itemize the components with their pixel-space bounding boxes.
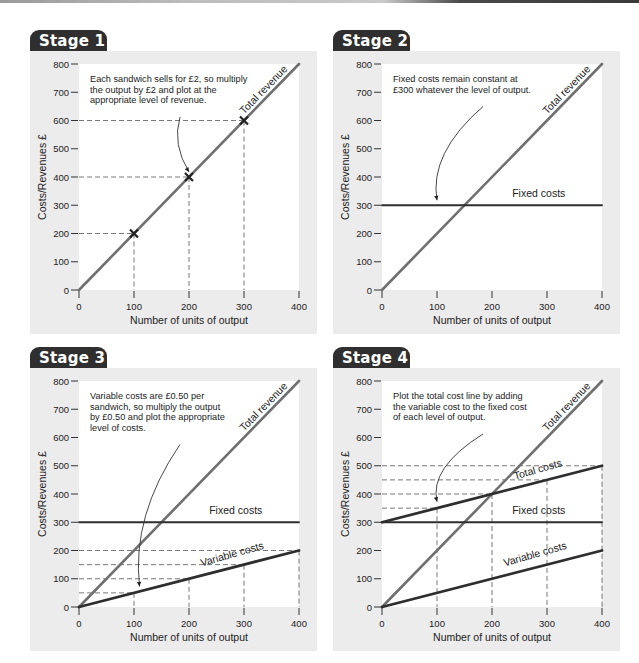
y-tick-label: 0 (64, 285, 69, 296)
y-tick-label: 0 (64, 602, 69, 613)
stage-3-tab: Stage 3 (30, 347, 107, 368)
x-tick-label: 0 (379, 618, 384, 629)
stage-1-tab: Stage 1 (30, 30, 107, 51)
y-tick-label: 100 (356, 256, 372, 267)
y-tick-label: 700 (356, 404, 372, 415)
x-tick-label: 300 (236, 618, 252, 629)
y-tick-label: 200 (356, 545, 372, 556)
y-tick-label: 300 (356, 200, 372, 211)
y-tick-label: 800 (53, 376, 69, 387)
x-tick-label: 0 (76, 618, 81, 629)
y-tick-label: 800 (356, 59, 372, 70)
stage-1-chart: 01002003004005006007008000100200300400Nu… (30, 51, 317, 334)
annotation-text: Fixed costs remain constant at (393, 74, 518, 84)
y-tick-label: 0 (367, 285, 372, 296)
annotation-text: Each sandwich sells for £2, so multiply (90, 74, 248, 84)
x-tick-label: 400 (594, 618, 610, 629)
stage-1-chart-panel: 01002003004005006007008000100200300400Nu… (30, 51, 317, 334)
annotation-text: level of costs. (90, 423, 146, 433)
x-tick-label: 0 (76, 301, 81, 312)
annotation-text: by £0.50 and plot the appropriate (90, 412, 225, 422)
x-tick-label: 200 (484, 301, 500, 312)
stage-2-figure: Stage 2 01002003004005006007008000100200… (333, 30, 620, 334)
stage-4-chart: 01002003004005006007008000100200300400Nu… (333, 368, 620, 651)
y-tick-label: 300 (356, 517, 372, 528)
annotation-text: Variable costs are £0.50 per (90, 391, 204, 401)
y-tick-label: 700 (53, 87, 69, 98)
x-tick-label: 100 (429, 301, 445, 312)
y-tick-label: 400 (356, 489, 372, 500)
y-tick-label: 800 (53, 59, 69, 70)
y-tick-label: 600 (356, 115, 372, 126)
x-tick-label: 400 (594, 301, 610, 312)
x-tick-label: 100 (126, 618, 142, 629)
x-tick-label: 300 (236, 301, 252, 312)
y-tick-label: 600 (53, 432, 69, 443)
fixed-costs-label: Fixed costs (512, 504, 565, 516)
x-tick-label: 0 (379, 301, 384, 312)
x-axis-label: Number of units of output (433, 631, 551, 643)
annotation-text: Plot the total cost line by adding (393, 391, 523, 401)
fixed-costs-label: Fixed costs (512, 187, 565, 199)
stage-2-tab: Stage 2 (333, 30, 410, 51)
y-tick-label: 700 (53, 404, 69, 415)
x-tick-label: 200 (484, 618, 500, 629)
y-tick-label: 600 (53, 115, 69, 126)
y-tick-label: 400 (53, 172, 69, 183)
x-tick-label: 400 (291, 618, 307, 629)
x-axis-label: Number of units of output (130, 631, 248, 643)
x-tick-label: 100 (429, 618, 445, 629)
annotation-text: appropriate level of revenue. (90, 95, 206, 105)
y-axis-label: Costs/Revenues £ (339, 134, 351, 220)
stage-3-figure: Stage 3 01002003004005006007008000100200… (30, 347, 317, 651)
x-tick-label: 400 (291, 301, 307, 312)
y-tick-label: 500 (356, 143, 372, 154)
y-tick-label: 700 (356, 87, 372, 98)
stage-4-tab: Stage 4 (333, 347, 410, 368)
y-tick-label: 500 (53, 460, 69, 471)
y-tick-label: 100 (356, 573, 372, 584)
y-tick-label: 300 (53, 200, 69, 211)
y-tick-label: 200 (53, 545, 69, 556)
y-tick-label: 500 (53, 143, 69, 154)
y-axis-label: Costs/Revenues £ (36, 451, 48, 537)
y-tick-label: 200 (53, 228, 69, 239)
annotation-text: of each level of output. (393, 412, 485, 422)
x-tick-label: 200 (181, 301, 197, 312)
annotation-text: sandwich, so multiply the output (90, 402, 221, 412)
stage-3-chart-panel: 01002003004005006007008000100200300400Nu… (30, 368, 317, 651)
stage-4-figure: Stage 4 01002003004005006007008000100200… (333, 347, 620, 651)
x-axis-label: Number of units of output (433, 314, 551, 326)
stage-3-chart: 01002003004005006007008000100200300400Nu… (30, 368, 317, 651)
y-tick-label: 600 (356, 432, 372, 443)
y-axis-label: Costs/Revenues £ (339, 451, 351, 537)
x-tick-label: 200 (181, 618, 197, 629)
annotation-text: the output by £2 and plot at the (90, 85, 217, 95)
y-tick-label: 400 (53, 489, 69, 500)
top-border-strip (0, 0, 639, 3)
stage-2-chart: 01002003004005006007008000100200300400Nu… (333, 51, 620, 334)
y-tick-label: 0 (367, 602, 372, 613)
y-tick-label: 100 (53, 573, 69, 584)
fixed-costs-label: Fixed costs (209, 504, 262, 516)
y-axis-label: Costs/Revenues £ (36, 134, 48, 220)
y-tick-label: 200 (356, 228, 372, 239)
annotation-text: £300 whatever the level of output. (393, 85, 531, 95)
y-tick-label: 100 (53, 256, 69, 267)
x-tick-label: 300 (539, 618, 555, 629)
x-tick-label: 300 (539, 301, 555, 312)
x-axis-label: Number of units of output (130, 314, 248, 326)
stage-2-chart-panel: 01002003004005006007008000100200300400Nu… (333, 51, 620, 334)
y-tick-label: 800 (356, 376, 372, 387)
stage-1-figure: Stage 1 01002003004005006007008000100200… (30, 30, 317, 334)
y-tick-label: 300 (53, 517, 69, 528)
stage-4-chart-panel: 01002003004005006007008000100200300400Nu… (333, 368, 620, 651)
y-tick-label: 400 (356, 172, 372, 183)
annotation-text: the variable cost to the fixed cost (393, 402, 527, 412)
x-tick-label: 100 (126, 301, 142, 312)
y-tick-label: 500 (356, 460, 372, 471)
